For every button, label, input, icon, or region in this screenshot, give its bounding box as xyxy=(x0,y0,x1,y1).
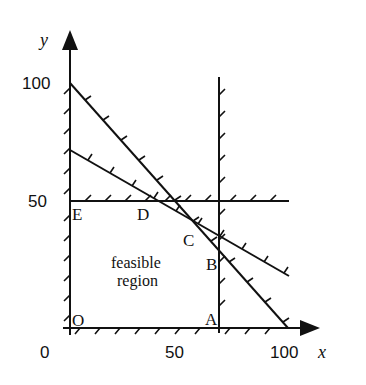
region-label: region xyxy=(117,272,158,290)
x-tick-50: 50 xyxy=(165,343,184,362)
y-tick-100: 100 xyxy=(22,74,50,93)
x-axis-label: x xyxy=(317,342,326,362)
tick-0: 0 xyxy=(40,343,49,362)
feasible-label: feasible xyxy=(111,254,161,271)
point-A: A xyxy=(205,310,218,329)
x-tick-100: 100 xyxy=(270,343,298,362)
point-E: E xyxy=(72,205,82,224)
constraint-line-2 xyxy=(70,150,289,276)
point-D: D xyxy=(137,205,149,224)
lp-chart: y x 100 50 0 50 100 O A B C D E feasible… xyxy=(0,0,366,385)
hatch-marks xyxy=(64,88,289,334)
point-B: B xyxy=(206,255,217,274)
point-C: C xyxy=(183,231,194,250)
y-axis-label: y xyxy=(38,30,48,50)
y-tick-50: 50 xyxy=(28,192,47,211)
point-O: O xyxy=(72,311,84,330)
